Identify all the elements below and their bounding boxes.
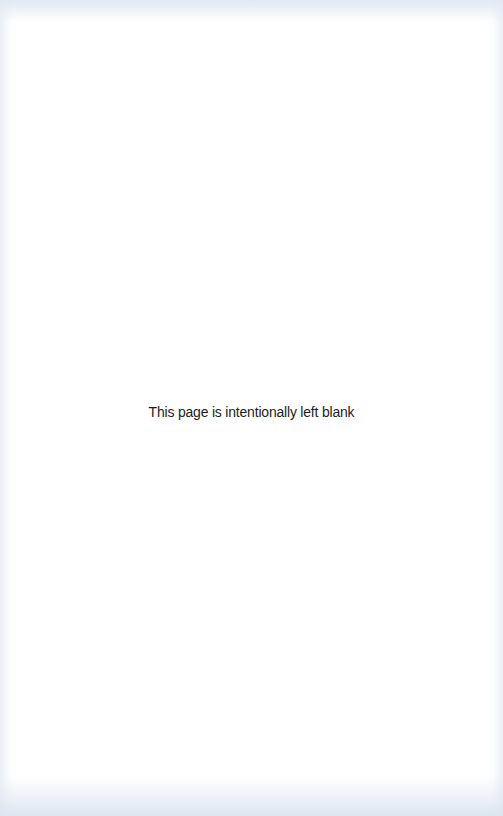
blank-page-notice: This page is intentionally left blank: [25, 402, 478, 422]
scan-edge-bottom: [0, 776, 503, 816]
document-page: This page is intentionally left blank: [0, 0, 503, 816]
scan-edge-top: [0, 0, 503, 22]
